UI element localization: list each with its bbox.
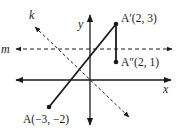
point-a-double-prime xyxy=(114,60,119,65)
point-a-prime xyxy=(114,22,119,27)
y-axis-label: y xyxy=(77,17,84,31)
diagram-canvas: x y m k A(−3, −2) A′(2, 3) A″(2, 1) xyxy=(0,0,176,129)
point-a xyxy=(47,105,52,110)
point-a-double-prime-label: A″(2, 1) xyxy=(121,56,159,69)
line-k xyxy=(35,27,129,117)
line-k-label: k xyxy=(29,8,35,22)
point-a-prime-label: A′(2, 3) xyxy=(121,12,157,25)
segment-a-a-prime xyxy=(49,24,116,107)
line-m-label: m xyxy=(1,42,10,56)
x-axis-label: x xyxy=(162,82,169,96)
point-a-label: A(−3, −2) xyxy=(23,113,69,126)
